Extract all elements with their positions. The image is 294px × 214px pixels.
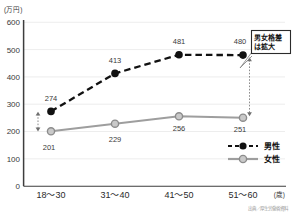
legend-label-male: 男性 xyxy=(264,141,280,151)
source-note: 出典／厚生労働省資料 xyxy=(248,205,289,212)
x-tick-2: 41〜50 xyxy=(164,190,193,200)
female-label-0: 201 xyxy=(43,143,56,152)
chart-background xyxy=(0,0,294,214)
male-label-1: 413 xyxy=(109,56,122,65)
x-tick-0: 18〜30 xyxy=(36,190,65,200)
female-point-marker xyxy=(47,128,54,135)
female-label-2: 256 xyxy=(173,124,186,133)
female-point-marker xyxy=(175,113,182,120)
legend-male-marker xyxy=(239,142,246,149)
y-tick-200: 200 xyxy=(7,127,21,136)
x-tick-1: 31〜40 xyxy=(100,190,129,200)
y-tick-600: 600 xyxy=(7,18,21,27)
chart-container: (万円) 600 500 400 300 200 100 0 xyxy=(0,0,294,214)
female-point-marker xyxy=(111,120,118,127)
y-tick-100: 100 xyxy=(7,155,21,164)
male-label-0: 274 xyxy=(45,94,58,103)
legend-female-marker xyxy=(239,155,246,162)
male-point-marker xyxy=(47,108,55,116)
legend-label-female: 女性 xyxy=(264,154,280,164)
female-point-marker xyxy=(239,114,246,121)
male-label-3: 480 xyxy=(234,37,247,46)
y-tick-500: 500 xyxy=(7,46,21,55)
male-label-2: 481 xyxy=(173,37,186,46)
callout-text-line-1: 男女格差 xyxy=(254,33,282,42)
y-tick-400: 400 xyxy=(7,73,21,82)
callout-text-line-2: は拡大 xyxy=(254,42,275,51)
y-tick-0: 0 xyxy=(16,182,21,191)
female-label-3: 251 xyxy=(234,125,247,134)
female-label-1: 229 xyxy=(109,135,122,144)
x-tick-3: 51〜60 xyxy=(228,190,257,200)
y-axis-unit-label: (万円) xyxy=(4,6,22,14)
y-tick-300: 300 xyxy=(7,100,21,109)
x-axis-unit-label: (歳) xyxy=(274,190,285,199)
male-point-marker xyxy=(111,70,119,78)
male-point-marker xyxy=(239,51,247,59)
male-point-marker xyxy=(175,51,183,59)
line-chart-svg: (万円) 600 500 400 300 200 100 0 xyxy=(0,0,294,214)
gap-callout-box: 男女格差 は拡大 xyxy=(252,31,291,54)
